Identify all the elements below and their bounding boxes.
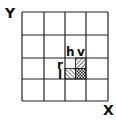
grid-lines bbox=[22, 12, 108, 101]
quadrant-bottom-right bbox=[76, 69, 87, 80]
quadrant-top-right bbox=[76, 58, 87, 69]
label-l: l bbox=[58, 69, 62, 81]
quadrant-bottom-left bbox=[65, 69, 76, 80]
label-h: h bbox=[66, 46, 75, 58]
label-v: v bbox=[77, 46, 85, 58]
